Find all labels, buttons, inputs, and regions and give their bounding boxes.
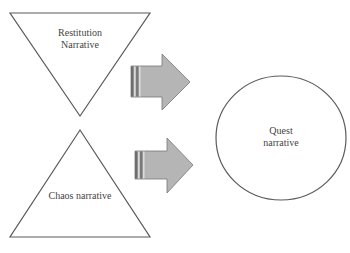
quest-narrative-label: Quest narrative [241,125,321,149]
restitution-label-line1: Restitution [40,27,120,39]
quest-label-line1: Quest [241,125,321,137]
restitution-label-line2: Narrative [40,39,120,51]
quest-label-line2: narrative [241,137,321,149]
chaos-triangle-shape [10,130,150,237]
arrow-chaos-to-quest-icon [135,138,193,193]
restitution-narrative-label: Restitution Narrative [40,27,120,51]
cropped-caption [60,247,180,253]
arrow-restitution-to-quest-icon [131,54,190,110]
chaos-narrative-label: Chaos narrative [35,190,125,202]
